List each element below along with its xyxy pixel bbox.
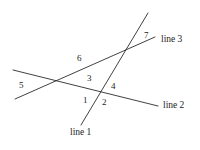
geometry-diagram: 1 2 3 4 5 6 7 line 1 line 2 line 3 xyxy=(0,0,200,150)
diagram-canvas xyxy=(0,0,200,150)
line-1-stroke xyxy=(81,13,148,125)
angle-label-4: 4 xyxy=(111,82,116,91)
line-3-label: line 3 xyxy=(161,35,182,45)
angle-label-6: 6 xyxy=(77,54,82,63)
angle-label-2: 2 xyxy=(102,98,107,107)
line-2-label: line 2 xyxy=(163,101,184,111)
angle-label-7: 7 xyxy=(144,31,149,40)
angle-label-3: 3 xyxy=(87,74,92,83)
angle-label-5: 5 xyxy=(19,81,24,90)
angle-label-1: 1 xyxy=(83,96,88,105)
line-1-label: line 1 xyxy=(70,128,91,138)
line-3-stroke xyxy=(15,37,155,99)
